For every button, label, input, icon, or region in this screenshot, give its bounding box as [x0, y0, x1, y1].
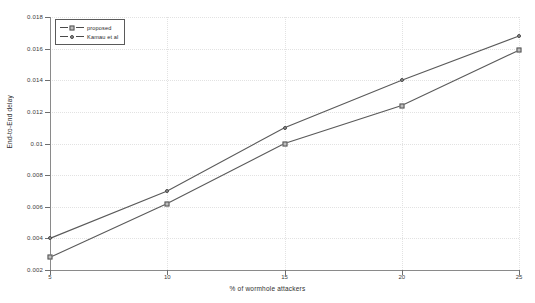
legend-entry-proposed: proposed	[59, 23, 119, 32]
data-point-marker	[399, 103, 404, 108]
data-point-marker	[165, 201, 170, 206]
legend-label-proposed: proposed	[85, 25, 112, 31]
figure-chart-end-to-end-delay: 0.018 0.016 0.014 0.012 0.01 0.008 0.006…	[0, 0, 535, 303]
data-point-marker	[48, 255, 53, 260]
data-point-marker	[48, 236, 52, 240]
legend-marker-square-icon	[59, 23, 85, 32]
legend: proposed Kamau et al	[55, 19, 125, 45]
data-point-marker	[282, 141, 287, 146]
legend-entry-kamau: Kamau et al	[59, 32, 119, 41]
data-point-marker	[517, 48, 522, 53]
data-point-marker	[165, 189, 169, 193]
data-point-marker	[400, 78, 404, 82]
data-point-marker	[517, 34, 521, 38]
series-markers-layer	[0, 0, 535, 303]
legend-label-kamau: Kamau et al	[85, 34, 119, 40]
legend-marker-circle-icon	[59, 32, 85, 41]
data-point-marker	[283, 126, 287, 130]
